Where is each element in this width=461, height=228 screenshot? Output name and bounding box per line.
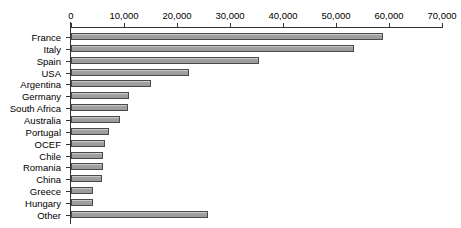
- category-tick: [66, 73, 70, 74]
- axis-tick-label: 10,000: [109, 10, 138, 21]
- category-label: Portugal: [26, 127, 61, 138]
- bar-row: [71, 56, 442, 67]
- category-label: USA: [41, 68, 61, 79]
- category-tick: [66, 132, 70, 133]
- bar-row: [71, 68, 442, 79]
- bar: [71, 211, 208, 218]
- category-label: Hungary: [25, 198, 61, 209]
- axis-tick-label: 0: [68, 10, 73, 21]
- value-axis-tick-labels: 010,00020,00030,00040,00050,00060,00070,…: [71, 4, 442, 18]
- category-tick: [66, 156, 70, 157]
- axis-tick-label: 50,000: [321, 10, 350, 21]
- bar: [71, 45, 354, 52]
- category-axis: FranceItalySpainUSAArgentinaGermanySouth…: [0, 28, 64, 224]
- category-tick: [66, 167, 70, 168]
- bar: [71, 116, 120, 123]
- bar-row: [71, 151, 442, 162]
- bar: [71, 128, 109, 135]
- bar-row: [71, 139, 442, 150]
- category-tick: [66, 84, 70, 85]
- category-label: Germany: [22, 91, 61, 102]
- category-label: Greece: [30, 186, 61, 197]
- category-tick: [66, 49, 70, 50]
- axis-tick-label: 30,000: [215, 10, 244, 21]
- axis-tick-label: 40,000: [268, 10, 297, 21]
- bar: [71, 163, 103, 170]
- category-tick: [66, 61, 70, 62]
- category-label: France: [31, 32, 61, 43]
- axis-tick-label: 60,000: [374, 10, 403, 21]
- bar-row: [71, 32, 442, 43]
- category-tick: [66, 191, 70, 192]
- bar: [71, 140, 105, 147]
- bar-row: [71, 198, 442, 209]
- bar-chart: FranceItalySpainUSAArgentinaGermanySouth…: [0, 0, 461, 228]
- category-tick: [66, 179, 70, 180]
- bar-row: [71, 186, 442, 197]
- bar: [71, 175, 102, 182]
- bar: [71, 152, 103, 159]
- category-label: China: [36, 174, 61, 185]
- bar-row: [71, 44, 442, 55]
- bar: [71, 199, 93, 206]
- category-label: Argentina: [20, 79, 61, 90]
- category-tick: [66, 203, 70, 204]
- category-label: Spain: [37, 56, 61, 67]
- category-tick: [66, 215, 70, 216]
- bar: [71, 187, 93, 194]
- bar: [71, 33, 383, 40]
- category-tick: [66, 96, 70, 97]
- bar: [71, 80, 151, 87]
- bar: [71, 57, 259, 64]
- category-tick: [66, 108, 70, 109]
- category-label: Australia: [24, 115, 61, 126]
- bar-row: [71, 115, 442, 126]
- bar-row: [71, 103, 442, 114]
- bar: [71, 92, 129, 99]
- category-tick: [66, 120, 70, 121]
- bar-row: [71, 127, 442, 138]
- category-tick: [66, 37, 70, 38]
- category-label: Italy: [44, 44, 61, 55]
- category-label: OCEF: [35, 139, 61, 150]
- category-label: Chile: [39, 151, 61, 162]
- bar-row: [71, 174, 442, 185]
- bar-row: [71, 162, 442, 173]
- bar: [71, 104, 128, 111]
- bar: [71, 69, 189, 76]
- category-label: South Africa: [10, 103, 61, 114]
- axis-tick: [442, 23, 443, 28]
- bar-row: [71, 79, 442, 90]
- category-tick: [66, 144, 70, 145]
- axis-tick-label: 70,000: [427, 10, 456, 21]
- category-label: Romania: [23, 162, 61, 173]
- category-label: Other: [37, 210, 61, 221]
- bar-row: [71, 210, 442, 221]
- plot-area: [71, 28, 442, 224]
- bar-row: [71, 91, 442, 102]
- axis-tick-label: 20,000: [162, 10, 191, 21]
